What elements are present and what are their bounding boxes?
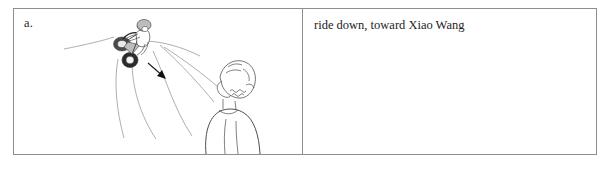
- caption-cell: ride down, toward Xiao Wang: [303, 9, 596, 154]
- person-back-fold-left: [224, 119, 226, 154]
- downhill-path-curve-right: [153, 51, 192, 136]
- person-back-fold-right: [236, 121, 238, 154]
- person-neck-right: [235, 101, 236, 110]
- illustration-cell: a.: [14, 9, 303, 154]
- screenshot-root: a.: [0, 0, 609, 171]
- rider-head-helmet: [137, 20, 151, 32]
- line-drawing-illustration: [14, 9, 303, 154]
- person-sight-line: [164, 47, 218, 87]
- downhill-path-curve-middle: [132, 61, 156, 139]
- caption-text: ride down, toward Xiao Wang: [314, 18, 464, 34]
- person-hair: [220, 61, 255, 98]
- cyclist-on-bicycle: [114, 20, 152, 68]
- hill-slope-line-right: [147, 41, 200, 56]
- two-column-frame: a.: [13, 8, 597, 155]
- downhill-path-curve-left: [116, 59, 124, 138]
- person-shoulders-back: [206, 109, 260, 154]
- hill-slope-line: [64, 37, 114, 49]
- direction-arrow-downhill: [148, 63, 166, 79]
- downhill-path-curve-far-right: [160, 45, 214, 102]
- bicycle-front-wheel: [122, 53, 138, 68]
